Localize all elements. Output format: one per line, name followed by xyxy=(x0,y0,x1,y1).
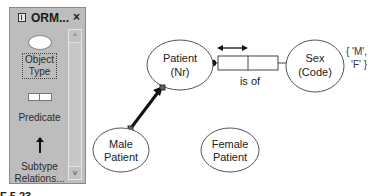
close-icon[interactable]: × xyxy=(73,10,80,24)
scroll-down-button[interactable]: v xyxy=(69,166,81,179)
palette-title: ORM... xyxy=(31,11,69,25)
subtype-connector[interactable] xyxy=(128,85,165,131)
palette-tool-list: Object Type Predicate Subtype Relations.… xyxy=(13,29,66,179)
entity-name-line2: Patient xyxy=(104,151,138,163)
value-constraint-line1: { 'M', xyxy=(346,46,367,57)
tool-predicate[interactable]: Predicate xyxy=(13,93,66,125)
entity-name: Patient xyxy=(163,52,197,64)
entity-ref-mode: (Code) xyxy=(298,66,332,78)
subtype-arrow-icon xyxy=(39,141,41,153)
uniqueness-constraint-arrow xyxy=(217,45,248,51)
window-icon xyxy=(18,13,26,22)
value-constraint[interactable]: { 'M', 'F' } xyxy=(346,46,368,70)
entity-name: Female xyxy=(212,138,249,150)
tool-object-type[interactable]: Object Type xyxy=(13,35,66,79)
tool-subtype-label: Subtype Relations... xyxy=(14,161,64,185)
predicate-reading: is of xyxy=(240,75,261,87)
entity-female-patient[interactable]: Female Patient xyxy=(201,128,259,172)
entity-name-line2: Patient xyxy=(213,151,247,163)
value-constraint-line2: 'F' } xyxy=(351,59,368,70)
figure-caption-clipped: F 5.23 ... ... xyxy=(0,190,56,196)
tool-label-line1: Subtype xyxy=(21,161,58,172)
predicate-boxes-icon xyxy=(28,93,52,101)
tool-label-line2: Type xyxy=(29,66,51,77)
palette-titlebar[interactable]: ORM... × xyxy=(10,8,85,27)
entity-name: Sex xyxy=(306,52,325,64)
tool-label-line1: Object xyxy=(25,54,54,65)
entity-patient[interactable]: Patient (Nr) xyxy=(147,40,213,90)
tool-predicate-label: Predicate xyxy=(18,112,60,124)
tool-subtype-relation[interactable]: Subtype Relations... xyxy=(13,137,66,186)
palette-scrollbar[interactable]: ^ v xyxy=(68,29,82,180)
entity-ref-mode: (Nr) xyxy=(171,66,190,78)
fact-type-predicate[interactable] xyxy=(218,56,278,70)
entity-male-patient[interactable]: Male Patient xyxy=(93,128,149,172)
object-type-ellipse-icon xyxy=(28,35,52,50)
entity-name: Male xyxy=(109,138,133,150)
scroll-up-button[interactable]: ^ xyxy=(69,30,81,43)
entity-sex[interactable]: Sex (Code) xyxy=(286,40,344,92)
tool-label-line2: Relations... xyxy=(14,173,64,184)
orm-toolbox-palette: ORM... × Object Type Predicate Subtype R… xyxy=(9,7,86,184)
tool-object-type-label: Object Type xyxy=(23,54,56,78)
